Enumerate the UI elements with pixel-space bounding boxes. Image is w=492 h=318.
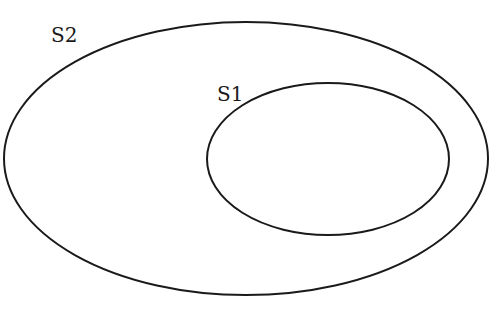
set-s2-label: S2 [51,23,77,47]
set-s1: S1 [207,82,449,235]
set-s2: S2 [4,22,488,295]
venn-diagram: S2 S1 [0,0,492,318]
set-s2-ellipse [4,22,488,295]
set-s1-label: S1 [217,82,243,106]
